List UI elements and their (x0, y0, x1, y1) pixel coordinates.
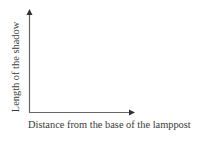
y-axis-label: Length of the shadow (10, 22, 21, 112)
y-axis-arrow-icon (27, 9, 33, 15)
x-axis-arrow-icon (129, 110, 135, 116)
x-axis-label: Distance from the base of the lamppost (28, 119, 196, 130)
chart: Length of the shadow Distance from the b… (0, 0, 207, 143)
